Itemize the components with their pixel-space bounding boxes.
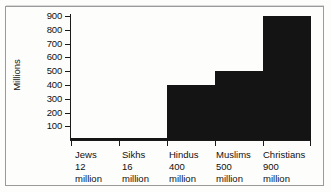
category-unit-hindus: million xyxy=(169,173,199,185)
category-value-muslims: 500 xyxy=(216,161,251,173)
category-name-hindus: Hindus xyxy=(169,149,199,161)
y-tick-label-100: 100 xyxy=(22,121,62,131)
category-name-muslims: Muslims xyxy=(216,149,251,161)
y-tick-label-500: 500 xyxy=(22,66,62,76)
y-tick-label-200: 200 xyxy=(22,108,62,118)
category-value-hindus: 400 xyxy=(169,161,199,173)
plot-area: Millions 900 800 700 600 500 400 300 200… xyxy=(0,0,331,192)
category-label-muslims: Muslims 500 million xyxy=(216,149,251,185)
y-axis-title: Millions xyxy=(12,45,22,105)
x-tick-mark-1 xyxy=(119,141,120,146)
x-tick-mark-4 xyxy=(263,141,264,146)
bar-christians xyxy=(263,16,311,140)
category-unit-muslims: million xyxy=(216,173,251,185)
x-tick-mark-3 xyxy=(215,141,216,146)
y-tick-label-600: 600 xyxy=(22,52,62,62)
y-tick-mark-400 xyxy=(65,85,70,86)
y-tick-label-300: 300 xyxy=(22,94,62,104)
y-tick-mark-900 xyxy=(65,16,70,17)
category-label-jews: Jews 12 million xyxy=(75,149,102,185)
category-unit-jews: million xyxy=(75,173,102,185)
category-value-sikhs: 16 xyxy=(122,161,149,173)
category-unit-christians: million xyxy=(263,173,305,185)
chart-figure: Millions 900 800 700 600 500 400 300 200… xyxy=(0,0,331,192)
category-label-sikhs: Sikhs 16 million xyxy=(122,149,149,185)
y-tick-mark-500 xyxy=(65,71,70,72)
x-tick-mark-0 xyxy=(71,141,72,146)
category-name-jews: Jews xyxy=(75,149,102,161)
category-name-christians: Christians xyxy=(263,149,305,161)
y-tick-mark-300 xyxy=(65,99,70,100)
category-label-christians: Christians 900 million xyxy=(263,149,305,185)
y-tick-label-800: 800 xyxy=(22,25,62,35)
category-label-hindus: Hindus 400 million xyxy=(169,149,199,185)
x-tick-mark-5 xyxy=(310,141,311,146)
y-tick-mark-600 xyxy=(65,57,70,58)
x-axis-line xyxy=(70,140,311,141)
y-axis-line xyxy=(70,14,71,141)
bar-hindus xyxy=(167,85,215,140)
x-tick-mark-2 xyxy=(167,141,168,146)
y-tick-mark-200 xyxy=(65,113,70,114)
category-unit-sikhs: million xyxy=(122,173,149,185)
y-tick-label-400: 400 xyxy=(22,80,62,90)
category-value-jews: 12 xyxy=(75,161,102,173)
y-tick-mark-700 xyxy=(65,44,70,45)
category-value-christians: 900 xyxy=(263,161,305,173)
y-tick-label-700: 700 xyxy=(22,39,62,49)
category-name-sikhs: Sikhs xyxy=(122,149,149,161)
y-tick-mark-100 xyxy=(65,126,70,127)
y-tick-label-900: 900 xyxy=(22,11,62,21)
y-tick-mark-800 xyxy=(65,30,70,31)
bar-muslims xyxy=(215,71,263,140)
